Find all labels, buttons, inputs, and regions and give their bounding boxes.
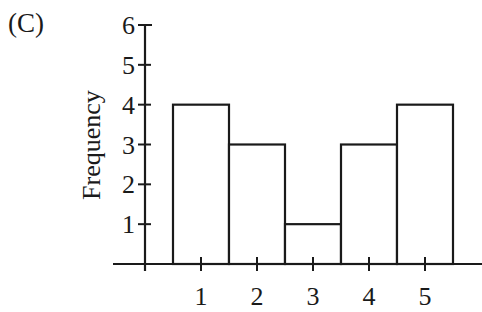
histogram-bar bbox=[341, 145, 397, 265]
histogram-bar bbox=[173, 105, 229, 264]
x-tick-label: 5 bbox=[419, 282, 432, 311]
x-tick-label: 3 bbox=[307, 282, 320, 311]
y-tick-label: 5 bbox=[122, 51, 135, 80]
y-axis-ticks: 123456 bbox=[122, 11, 152, 239]
histogram-chart: (C) Frequency 123456 12345 bbox=[0, 0, 482, 312]
y-tick-label: 2 bbox=[122, 170, 135, 199]
x-tick-label: 4 bbox=[363, 282, 376, 311]
y-axis-label: Frequency bbox=[77, 90, 106, 200]
y-tick-label: 3 bbox=[122, 131, 135, 160]
y-tick-label: 4 bbox=[122, 91, 135, 120]
panel-label: (C) bbox=[8, 8, 44, 38]
x-tick-label: 2 bbox=[251, 282, 264, 311]
x-tick-label: 1 bbox=[195, 282, 208, 311]
y-tick-label: 6 bbox=[122, 11, 135, 40]
y-tick-label: 1 bbox=[122, 210, 135, 239]
histogram-bar bbox=[229, 145, 285, 265]
bars bbox=[173, 105, 453, 264]
histogram-bar bbox=[397, 105, 453, 264]
